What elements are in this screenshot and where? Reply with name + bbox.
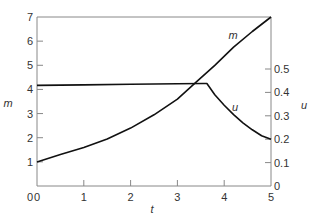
chart: 0123450123456700.10.20.30.40.5 t m u m u [0, 0, 314, 220]
x-tick-label: 5 [268, 191, 274, 203]
curve-label-u: u [232, 101, 238, 113]
y-left-tick-label: 5 [27, 59, 33, 71]
y-right-tick-label: 0.4 [274, 86, 289, 98]
y-right-tick-label: 0.5 [274, 63, 289, 75]
y-right-axis-label: u [301, 99, 307, 111]
y-right-tick-label: 0 [274, 180, 280, 192]
y-left-tick-label: 2 [27, 132, 33, 144]
y-right-tick-label: 0.2 [274, 133, 289, 145]
y-left-tick-label: 0 [27, 191, 33, 203]
y-left-tick-label: 3 [27, 108, 33, 120]
y-right-tick-label: 0.3 [274, 110, 289, 122]
x-axis-label: t [150, 203, 154, 215]
curve-label-m: m [228, 29, 237, 41]
x-tick-label: 0 [34, 191, 40, 203]
y-right-tick-label: 0.1 [274, 157, 289, 169]
x-tick-label: 1 [81, 191, 87, 203]
y-left-tick-label: 7 [27, 11, 33, 23]
x-tick-label: 3 [174, 191, 180, 203]
x-tick-label: 2 [128, 191, 134, 203]
y-left-tick-label: 6 [27, 35, 33, 47]
y-left-axis-label: m [3, 97, 12, 109]
x-tick-label: 4 [221, 191, 227, 203]
y-left-tick-label: 4 [27, 83, 33, 95]
y-left-tick-label: 1 [27, 156, 33, 168]
ticks: 0123450123456700.10.20.30.40.5 [27, 11, 289, 203]
